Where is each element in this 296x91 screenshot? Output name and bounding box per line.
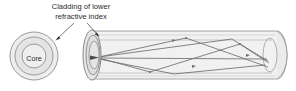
ray-node-1 [185, 37, 187, 39]
callout-line-1: Cladding of lower [52, 2, 111, 11]
ray-node-2 [239, 43, 241, 45]
cylinder-left-core-ellipse [89, 41, 99, 69]
fiber-cross-section: Core [10, 32, 58, 80]
cylinder-right-cap-outer [277, 31, 287, 79]
optical-fiber-diagram: Core [0, 0, 296, 91]
ray-node-3 [149, 71, 151, 73]
fiber-cylinder [83, 30, 287, 80]
core-label: Core [26, 54, 42, 63]
figure-canvas: Core [0, 0, 296, 91]
callout-line-2: refractive index [55, 12, 107, 21]
callout-leader-left [57, 23, 74, 39]
